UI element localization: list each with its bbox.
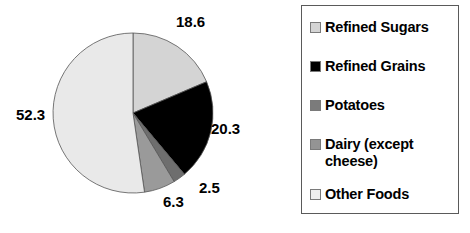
legend-item-dairy[interactable]: Dairy (except cheese) bbox=[310, 136, 456, 169]
legend-swatch-refined-sugars bbox=[310, 22, 321, 33]
legend-item-other-foods[interactable]: Other Foods bbox=[310, 186, 456, 203]
legend-swatch-refined-grains bbox=[310, 61, 321, 72]
legend-label-potatoes: Potatoes bbox=[325, 97, 385, 114]
pie-slice-group bbox=[53, 33, 213, 193]
pie-value-label-other-foods: 52.3 bbox=[16, 107, 45, 122]
legend-swatch-dairy bbox=[310, 139, 321, 150]
pie-value-label-dairy: 2.5 bbox=[199, 180, 220, 195]
legend-item-list: Refined Sugars Refined Grains Potatoes D… bbox=[302, 6, 458, 213]
pie-chart-figure: 18.6 20.3 2.5 6.3 52.3 Refined Sugars Re… bbox=[0, 0, 470, 233]
pie-plot-area: 18.6 20.3 2.5 6.3 52.3 bbox=[0, 0, 292, 233]
pie-value-label-refined-grains: 20.3 bbox=[211, 121, 240, 136]
legend-swatch-potatoes bbox=[310, 100, 321, 111]
pie-value-label-potatoes: 6.3 bbox=[163, 194, 184, 209]
legend-item-refined-grains[interactable]: Refined Grains bbox=[310, 58, 456, 75]
legend-label-other-foods: Other Foods bbox=[325, 186, 409, 203]
legend-item-potatoes[interactable]: Potatoes bbox=[310, 97, 456, 114]
legend: Refined Sugars Refined Grains Potatoes D… bbox=[301, 5, 459, 214]
legend-label-refined-grains: Refined Grains bbox=[325, 58, 425, 75]
legend-label-dairy: Dairy (except cheese) bbox=[325, 136, 456, 169]
legend-swatch-other-foods bbox=[310, 189, 321, 200]
legend-label-refined-sugars: Refined Sugars bbox=[325, 19, 429, 36]
pie-slice-other-foods[interactable] bbox=[53, 33, 144, 193]
legend-item-refined-sugars[interactable]: Refined Sugars bbox=[310, 19, 456, 36]
pie-value-label-refined-sugars: 18.6 bbox=[176, 14, 205, 29]
